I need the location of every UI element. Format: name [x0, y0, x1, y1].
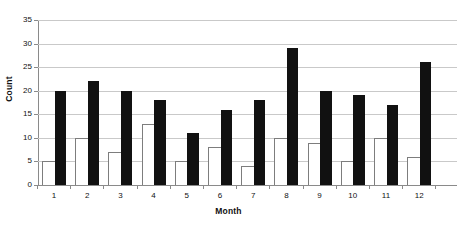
x-tick-label: 5 — [172, 192, 202, 200]
x-tick-mark — [70, 185, 71, 189]
y-tick-label: 5 — [6, 157, 32, 165]
x-tick-label: 9 — [305, 192, 335, 200]
y-tick-mark — [34, 138, 38, 139]
plot-area — [38, 20, 457, 185]
x-tick-label: 3 — [105, 192, 135, 200]
bar-black — [353, 95, 365, 185]
bar-black — [387, 105, 399, 185]
bar-black — [254, 100, 266, 185]
x-tick-mark — [203, 185, 204, 189]
y-tick-label: 35 — [6, 16, 32, 24]
x-tick-mark — [435, 185, 436, 189]
y-tick-label: 30 — [6, 40, 32, 48]
bar-black — [187, 133, 199, 185]
x-tick-mark — [269, 185, 270, 189]
bar-black — [420, 62, 432, 185]
x-tick-mark — [137, 185, 138, 189]
y-tick-label: 0 — [6, 181, 32, 189]
x-axis-line — [38, 185, 457, 186]
x-tick-label: 4 — [139, 192, 169, 200]
x-tick-mark — [303, 185, 304, 189]
y-tick-mark — [34, 67, 38, 68]
bar-black — [154, 100, 166, 185]
x-tick-label: 10 — [338, 192, 368, 200]
x-tick-mark — [336, 185, 337, 189]
x-tick-mark — [236, 185, 237, 189]
y-tick-mark — [34, 20, 38, 21]
gridline — [38, 44, 457, 45]
x-axis-title: Month — [0, 206, 457, 216]
gridline — [38, 91, 457, 92]
y-tick-label: 20 — [6, 87, 32, 95]
bar-black — [55, 91, 67, 185]
gridline — [38, 67, 457, 68]
x-tick-label: 6 — [205, 192, 235, 200]
y-tick-mark — [34, 91, 38, 92]
x-tick-mark — [37, 185, 38, 189]
x-tick-label: 12 — [404, 192, 434, 200]
y-tick-mark — [34, 161, 38, 162]
x-tick-label: 8 — [271, 192, 301, 200]
x-tick-label: 2 — [72, 192, 102, 200]
y-tick-label: 10 — [6, 134, 32, 142]
bar-black — [221, 110, 233, 185]
gridline — [38, 20, 457, 21]
y-tick-mark — [34, 44, 38, 45]
y-tick-label: 15 — [6, 110, 32, 118]
bar-black — [121, 91, 133, 185]
bar-chart: Count Month 0510152025303512345678910111… — [0, 0, 457, 225]
bar-black — [88, 81, 100, 185]
x-tick-mark — [402, 185, 403, 189]
y-tick-label: 25 — [6, 63, 32, 71]
x-tick-label: 11 — [371, 192, 401, 200]
bar-black — [320, 91, 332, 185]
x-tick-label: 1 — [39, 192, 69, 200]
x-tick-mark — [170, 185, 171, 189]
y-tick-mark — [34, 114, 38, 115]
x-tick-mark — [103, 185, 104, 189]
x-tick-label: 7 — [238, 192, 268, 200]
x-tick-mark — [369, 185, 370, 189]
bar-black — [287, 48, 299, 185]
